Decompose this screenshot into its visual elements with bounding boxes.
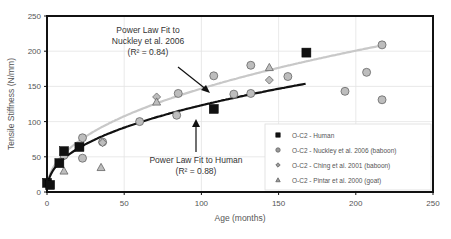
square-marker-icon: [302, 48, 311, 57]
y-tick-label: 150: [28, 82, 42, 91]
circle-marker-icon: [378, 96, 386, 104]
circle-marker-icon: [284, 73, 292, 81]
triangle-marker-icon: [60, 167, 68, 174]
circle-marker-icon: [230, 90, 238, 98]
circle-marker-icon: [247, 61, 255, 69]
y-tick-label: 0: [37, 188, 42, 197]
circle-marker-icon: [136, 118, 144, 126]
circle-marker-icon: [79, 134, 87, 142]
x-tick-label: 50: [120, 199, 129, 208]
circle-marker-icon: [173, 111, 181, 119]
legend-item: O-C2 - Nuckley et al. 2006 (baboon): [276, 147, 397, 155]
x-axis-label: Age (months): [214, 213, 265, 223]
legend-item: O-C2 - Pintar et al. 2000 (goat): [276, 177, 381, 185]
diamond-marker-icon: [265, 76, 273, 84]
annotation-nuckley-fit: Power Law Fit to Nuckley et al. 2006 (R²…: [112, 25, 210, 93]
annotation-nuckley-line2: Nuckley et al. 2006: [112, 36, 185, 46]
circle-marker-icon: [174, 89, 182, 97]
circle-marker-icon: [79, 154, 87, 162]
legend: O-C2 - HumanO-C2 - Nuckley et al. 2006 (…: [265, 124, 431, 190]
y-axis-label: Tensile Stiffness (N/mm): [6, 58, 16, 150]
circle-marker-icon: [378, 41, 386, 49]
square-marker-icon: [75, 142, 84, 151]
square-marker-icon: [276, 133, 280, 137]
legend-item: O-C2 - Ching et al. 2001 (baboon): [276, 162, 390, 170]
square-marker-icon: [209, 104, 218, 113]
legend-label: O-C2 - Ching et al. 2001 (baboon): [292, 162, 390, 170]
scatter-chart: 050100150200250050100150200250 Age (mont…: [0, 0, 451, 239]
x-tick-label: 250: [426, 199, 440, 208]
legend-label: O-C2 - Human: [292, 132, 335, 139]
y-tick-label: 250: [28, 12, 42, 21]
square-marker-icon: [55, 159, 64, 168]
square-marker-icon: [59, 147, 68, 156]
annotation-human-fit: Power Law Fit to Human (R² = 0.88): [149, 119, 242, 176]
annotation-nuckley-line3: (R² = 0.84): [128, 47, 169, 57]
x-tick-label: 0: [45, 199, 50, 208]
y-tick-label: 200: [28, 47, 42, 56]
x-tick-label: 200: [349, 199, 363, 208]
x-tick-label: 100: [195, 199, 209, 208]
annotation-nuckley-line1: Power Law Fit to: [116, 25, 180, 35]
legend-label: O-C2 - Nuckley et al. 2006 (baboon): [292, 147, 396, 155]
y-tick-label: 100: [28, 118, 42, 127]
circle-marker-icon: [276, 148, 280, 152]
circle-marker-icon: [210, 72, 218, 80]
x-tick-label: 150: [272, 199, 286, 208]
legend-label: O-C2 - Pintar et al. 2000 (goat): [292, 177, 381, 185]
circle-marker-icon: [341, 87, 349, 95]
circle-marker-icon: [247, 89, 255, 97]
annotation-human-line2: (R² = 0.88): [176, 166, 217, 176]
triangle-marker-icon: [265, 63, 273, 70]
annotation-human-line1: Power Law Fit to Human: [149, 155, 242, 165]
circle-marker-icon: [363, 68, 371, 76]
arrowhead-icon: [192, 119, 200, 127]
triangle-marker-icon: [97, 163, 105, 170]
y-tick-label: 50: [32, 153, 41, 162]
